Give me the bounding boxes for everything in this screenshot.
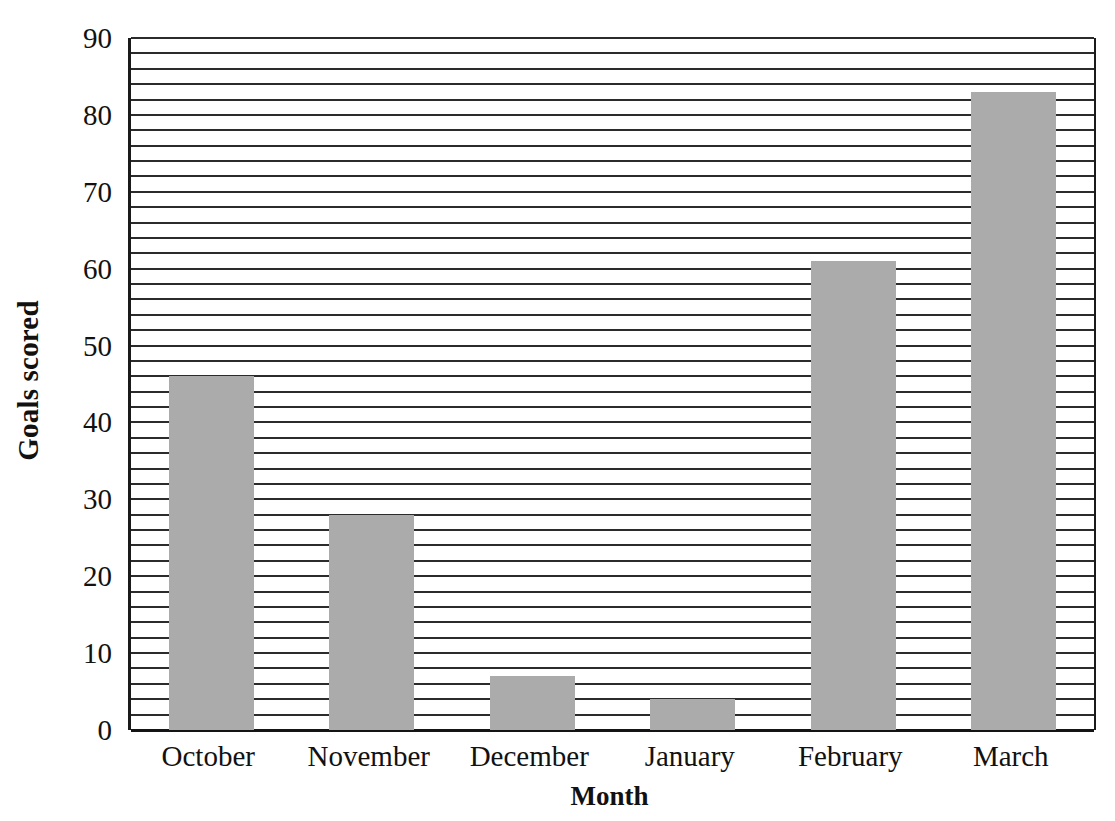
y-axis-tick-labels: 0102030405060708090: [42, 38, 112, 730]
gridline: [131, 514, 1094, 516]
gridline: [131, 237, 1094, 239]
gridline: [131, 652, 1094, 654]
gridline: [131, 560, 1094, 562]
y-tick-label: 40: [48, 408, 112, 437]
bar-october: [169, 376, 254, 730]
gridline: [131, 437, 1094, 439]
gridline: [131, 406, 1094, 408]
gridline: [131, 606, 1094, 608]
bar-march: [971, 92, 1056, 730]
x-tick-label: February: [798, 742, 903, 771]
bar-february: [811, 261, 896, 730]
gridline: [131, 252, 1094, 254]
gridline: [131, 529, 1094, 531]
y-tick-label: 10: [48, 639, 112, 668]
gridline: [131, 452, 1094, 454]
gridline: [131, 298, 1094, 300]
bar-december: [490, 676, 575, 730]
gridline: [131, 621, 1094, 623]
gridline: [131, 591, 1094, 593]
plot-area: [128, 38, 1096, 730]
x-axis-title: Month: [128, 781, 1091, 812]
gridline: [131, 391, 1094, 393]
gridline: [131, 52, 1094, 54]
bar-chart: Goals scored 0102030405060708090 October…: [0, 0, 1115, 821]
gridline: [131, 575, 1094, 577]
gridline: [131, 83, 1094, 85]
gridline: [131, 160, 1094, 162]
gridline: [131, 714, 1094, 716]
gridline: [131, 283, 1094, 285]
y-axis-title-label: Goals scored: [12, 300, 45, 461]
plot-inner: [131, 38, 1094, 730]
gridline: [131, 498, 1094, 500]
y-tick-label: 30: [48, 485, 112, 514]
gridline: [131, 544, 1094, 546]
gridline: [131, 175, 1094, 177]
gridline: [131, 698, 1094, 700]
gridline: [131, 314, 1094, 316]
gridline: [131, 129, 1094, 131]
gridline: [131, 421, 1094, 423]
gridline: [131, 99, 1094, 101]
gridline: [131, 37, 1094, 39]
gridline: [131, 729, 1094, 732]
y-tick-label: 20: [48, 562, 112, 591]
gridline: [131, 345, 1094, 347]
x-axis-title-label: Month: [570, 781, 648, 811]
gridline: [131, 637, 1094, 639]
x-tick-label: October: [162, 742, 255, 771]
x-tick-label: January: [645, 742, 735, 771]
y-tick-label: 70: [48, 177, 112, 206]
bar-november: [329, 515, 414, 730]
x-tick-label: March: [973, 742, 1049, 771]
gridline: [131, 191, 1094, 193]
gridline: [131, 360, 1094, 362]
y-tick-label: 60: [48, 254, 112, 283]
gridline: [131, 329, 1094, 331]
y-tick-label: 50: [48, 331, 112, 360]
gridline: [131, 375, 1094, 377]
gridline: [131, 222, 1094, 224]
gridline: [131, 483, 1094, 485]
gridline: [131, 667, 1094, 669]
gridline: [131, 145, 1094, 147]
bar-january: [650, 699, 735, 730]
gridline: [131, 683, 1094, 685]
gridline: [131, 114, 1094, 116]
x-tick-label: November: [308, 742, 430, 771]
gridline: [131, 268, 1094, 270]
x-tick-label: December: [470, 742, 589, 771]
y-tick-label: 0: [48, 716, 112, 745]
y-tick-label: 90: [48, 24, 112, 53]
y-tick-label: 80: [48, 100, 112, 129]
gridline: [131, 206, 1094, 208]
gridline: [131, 68, 1094, 70]
x-axis-tick-labels: OctoberNovemberDecemberJanuaryFebruaryMa…: [128, 742, 1091, 782]
gridline: [131, 468, 1094, 470]
